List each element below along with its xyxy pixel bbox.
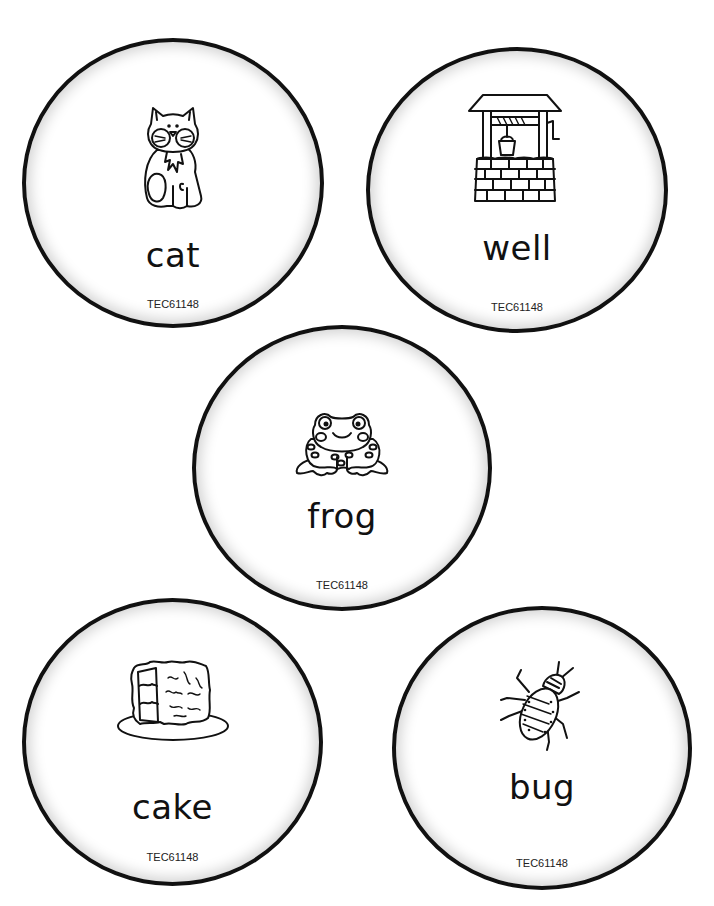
card-code: TEC61148 <box>26 299 320 310</box>
card-word: well <box>370 231 664 265</box>
card-code: TEC61148 <box>370 302 664 313</box>
word-card-cat: cat TEC61148 <box>22 38 324 328</box>
card-word: cat <box>26 238 320 272</box>
cat-icon <box>137 102 209 212</box>
bug-icon <box>497 658 587 752</box>
word-card-frog: frog TEC61148 <box>192 325 492 611</box>
frog-icon <box>293 409 391 481</box>
card-code: TEC61148 <box>396 858 688 869</box>
word-card-cake: cake TEC61148 <box>22 598 323 886</box>
word-card-bug: bug TEC61148 <box>392 606 692 890</box>
word-card-well: well TEC61148 <box>366 47 668 333</box>
cake-icon <box>116 658 230 744</box>
card-word: cake <box>26 790 319 824</box>
card-code: TEC61148 <box>26 852 319 863</box>
wishing-well-icon <box>467 93 567 203</box>
card-code: TEC61148 <box>196 580 488 591</box>
card-word: bug <box>396 770 688 804</box>
card-word: frog <box>196 499 488 533</box>
